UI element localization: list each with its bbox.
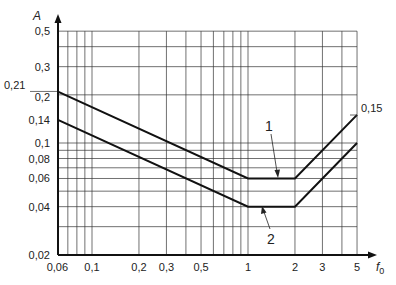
x-axis-label: f0 [376,260,384,276]
x-tick-label: 0,5 [193,261,208,273]
curves [57,91,357,206]
y-tick-label: 0,02 [29,249,50,261]
x-tick-label: 5 [354,261,360,273]
y-axis-label: A [32,9,41,23]
annotations: 1 2 0,15 [261,102,382,247]
curve-1-leader [271,134,277,172]
x-tick-label: 0,2 [131,261,146,273]
y-tick-label: 0,3 [35,61,50,73]
y-tick-label: 0,08 [29,153,50,165]
y-tick-label: 0,14 [29,114,50,126]
y-tick-label: 0,2 [35,91,50,103]
chart: 0,060,10,20,30,512350,50,30,210,20,140,1… [0,0,396,285]
end-value-label: 0,15 [361,102,382,114]
y-axis-arrow-icon [55,14,62,23]
curve-2-label: 2 [267,231,275,247]
y-tick-label: 0,06 [29,172,50,184]
y-tick-label: 0,04 [29,201,50,213]
grid [30,31,357,255]
curve-1 [57,91,357,178]
y-tick-label: 0,21 [4,79,25,91]
x-tick-label: 0,1 [84,261,99,273]
curve-1-label: 1 [265,118,273,134]
x-axis-arrow-icon [368,252,377,259]
x-tick-label: 1 [245,261,251,273]
y-tick-label: 0,1 [35,137,50,149]
curve-2 [57,120,357,207]
x-tick-label: 2 [292,261,298,273]
chart-svg: 0,060,10,20,30,512350,50,30,210,20,140,1… [0,0,396,285]
x-tick-label: 0,3 [159,261,174,273]
arrow-icon [275,170,281,179]
x-tick-label: 0,06 [47,261,68,273]
y-tick-label: 0,5 [35,25,50,37]
x-tick-label: 3 [319,261,325,273]
